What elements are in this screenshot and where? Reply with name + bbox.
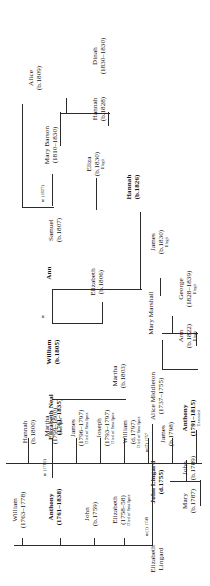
person-john-1759: John (b.1759) xyxy=(84,492,99,536)
person-dates: (1763–1778) xyxy=(20,484,28,536)
tick-martha-1803 xyxy=(52,438,53,464)
person-william-1763: William (1763–1778) xyxy=(12,484,27,536)
person-ann-1822: Ann (b.1822) Illegit xyxy=(178,314,198,358)
person-note: Died of Smallpox xyxy=(137,408,142,456)
person-elizabeth-1806: Elizabeth (b.1806) xyxy=(90,256,105,308)
person-joseph-1793: Joseph (1793–1797) Died of Smallpox xyxy=(96,400,116,456)
tick-james-1796 xyxy=(124,438,125,464)
person-george-1828: George (1828–1839) Illegit xyxy=(178,260,198,318)
sibling-bar-g2-join xyxy=(152,438,153,546)
connector-elizabeth-1806-h xyxy=(102,302,103,324)
tick-dinah-1830 xyxy=(66,98,67,114)
person-dates: (1830–1830) xyxy=(100,26,108,86)
person-note: Died of Smallpox xyxy=(111,400,116,456)
person-james-1796: James (1796–1797) Died of Smallpox xyxy=(70,400,90,456)
person-name: Ann xyxy=(46,256,54,290)
marriage-line-mary-marshall xyxy=(162,340,163,370)
person-note: Executed xyxy=(197,388,202,448)
person-dates: (b.1800) xyxy=(30,408,38,456)
person-james-1830: James (b.1830) Illegit xyxy=(150,218,170,266)
person-dates: (b.1828) xyxy=(100,84,108,134)
connector-samuel-stem xyxy=(22,207,54,208)
tick-hannah-1800 xyxy=(76,438,77,464)
person-dates: (1761–1838) xyxy=(56,478,64,536)
person-dates: (b.1803) xyxy=(120,352,128,400)
marriage-label-mary-barson: m (1827) xyxy=(40,185,45,202)
person-hannah-1800: Hannah (b.1800) xyxy=(22,408,37,456)
family-tree-chart: Elizabeth Lingard m(1) 1749 John Lingard… xyxy=(0,0,210,586)
tick-hannah-1828 xyxy=(108,112,109,126)
tick-john-1759 xyxy=(94,538,95,546)
tick-anthony-1761 xyxy=(60,538,61,546)
person-samuel-1807: Samuel (b.1807) xyxy=(48,206,63,254)
person-anthony-1761: Anthony (1761–1838) xyxy=(48,478,63,536)
person-surname: Lingard xyxy=(158,536,166,582)
connector-elizabeth-1806 xyxy=(52,323,102,324)
person-ann-spouse: Ann xyxy=(46,256,54,290)
tick-elizabeth-1758 xyxy=(124,538,125,546)
tick-martha-1799 xyxy=(100,438,101,464)
line-hannah-1826 xyxy=(140,212,141,290)
person-note: Illegit xyxy=(193,314,198,358)
person-james-1798: James (b.1798) xyxy=(160,412,175,456)
person-name: Mary Marshall xyxy=(148,284,156,342)
connector-martha-stem xyxy=(52,399,126,400)
tick-mary-1787 xyxy=(200,480,201,506)
person-martha-1799: Martha (1799–1800) Smallpox xyxy=(44,396,64,456)
descent-samuel xyxy=(60,112,61,146)
person-mary-marshall: Mary Marshall xyxy=(148,284,156,342)
tick-james-1830 xyxy=(160,278,161,296)
person-william-1805: William (b.1805) xyxy=(46,326,61,378)
person-hannah-1826: Hannah (b.1826) xyxy=(126,162,141,212)
person-alice-1809: Alice (b.1809) xyxy=(28,56,43,100)
person-dates: (b.1826) xyxy=(134,162,142,212)
person-anthony-1791: Anthony (1791–1815) Executed xyxy=(182,388,202,448)
person-note: Died of Smallpox xyxy=(127,484,132,536)
person-dinah-1830: Dinah (1830–1830) xyxy=(92,26,107,86)
person-hannah-1828: Hannah (b.1828) xyxy=(92,84,107,134)
person-dates: (b.1805) xyxy=(54,326,62,378)
tick-joseph-1793 xyxy=(148,438,149,464)
person-note: Died of Smallpox xyxy=(85,400,90,456)
sibling-bar-g2 xyxy=(14,545,152,546)
person-dates: (b.1759) xyxy=(92,492,100,536)
person-dates: (1810–1830) xyxy=(52,114,60,176)
connector-william-stem xyxy=(52,289,142,290)
marriage-line-ann xyxy=(52,290,53,324)
person-elizabeth-1758: Elizabeth (1758–58) Died of Smallpox xyxy=(112,484,132,536)
tick-william-1763 xyxy=(22,538,23,546)
tick-william-1805 xyxy=(28,438,29,464)
person-note: Illegit xyxy=(193,260,198,318)
marriage-label-1: m(1) 1749 xyxy=(144,517,149,536)
person-note: Smallpox xyxy=(59,396,64,456)
person-mary-barson: Mary Barson (1810–1830) xyxy=(44,114,59,176)
marriage-label-ann: m xyxy=(40,314,45,318)
line-alice-1809 xyxy=(22,104,23,208)
marriage-line-mary-barson xyxy=(52,174,53,206)
person-dates: (b.1789) xyxy=(190,446,198,490)
person-note: Illegit xyxy=(165,218,170,266)
person-dates: (b.1807) xyxy=(56,206,64,254)
tick-george-1828 xyxy=(172,316,173,334)
marriage-label-g2: m (1786) xyxy=(42,459,47,476)
person-dates: (b.1806) xyxy=(98,256,106,308)
person-martha-1803: Martha (b.1803) xyxy=(112,352,127,400)
person-eliza-1830: Eliza (b.1830) Illegit xyxy=(86,142,106,186)
person-note: Illegit xyxy=(101,142,106,186)
tick-william-1797 xyxy=(172,438,173,464)
person-dates: (b.1809) xyxy=(36,56,44,100)
person-john-1789: John (b.1789) xyxy=(182,446,197,490)
connector-james-stem xyxy=(162,369,198,370)
